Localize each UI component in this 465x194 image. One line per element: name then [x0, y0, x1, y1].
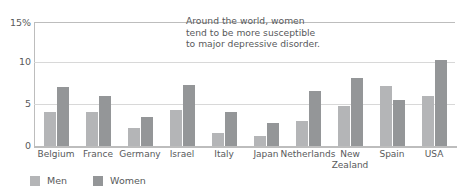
- bar-spain-women: [393, 100, 405, 146]
- bar-new-zealand-men: [338, 106, 350, 146]
- y-axis-tick-0: 0: [1, 141, 31, 151]
- legend-label-women: Women: [110, 176, 146, 186]
- y-axis-tick-10: 10: [1, 57, 31, 67]
- legend-item-women[interactable]: Women: [93, 176, 146, 186]
- bar-japan-men: [254, 136, 266, 146]
- bar-group-spain: [371, 22, 413, 146]
- bar-germany-men: [128, 128, 140, 147]
- bar-israel-men: [170, 110, 182, 146]
- bar-germany-women: [141, 117, 153, 146]
- legend-label-men: Men: [47, 176, 67, 186]
- legend-swatch-men-icon: [30, 176, 40, 186]
- bar-netherlands-women: [309, 91, 321, 146]
- bar-usa-women: [435, 60, 447, 146]
- bar-belgium-women: [57, 87, 69, 146]
- bar-japan-women: [267, 123, 279, 146]
- bar-france-men: [86, 112, 98, 146]
- bar-usa-men: [422, 96, 434, 146]
- y-axis: 15% 10 5 0: [0, 0, 31, 194]
- bar-belgium-men: [44, 112, 56, 146]
- bar-group-usa: [413, 22, 455, 146]
- y-axis-tick-15: 15%: [1, 18, 31, 28]
- bar-new-zealand-women: [351, 78, 363, 146]
- bar-israel-women: [183, 85, 195, 146]
- bar-netherlands-men: [296, 121, 308, 146]
- bar-group-germany: [119, 22, 161, 146]
- x-axis-labels: Belgium France Germany Israel Italy Japa…: [35, 149, 455, 177]
- bar-italy-men: [212, 133, 224, 146]
- bar-chart: 15% 10 5 0: [0, 0, 465, 194]
- chart-annotation: Around the world, women tend to be more …: [186, 15, 336, 50]
- legend-item-men[interactable]: Men: [30, 176, 67, 186]
- chart-legend: Men Women: [30, 176, 146, 186]
- bar-group-france: [77, 22, 119, 146]
- bar-italy-women: [225, 112, 237, 146]
- legend-swatch-women-icon: [93, 176, 103, 186]
- y-axis-tick-5: 5: [1, 99, 31, 109]
- bar-spain-men: [380, 86, 392, 147]
- bar-group-belgium: [35, 22, 77, 146]
- x-axis-line: [34, 146, 457, 148]
- x-label-usa: USA: [409, 149, 459, 160]
- bar-france-women: [99, 96, 111, 146]
